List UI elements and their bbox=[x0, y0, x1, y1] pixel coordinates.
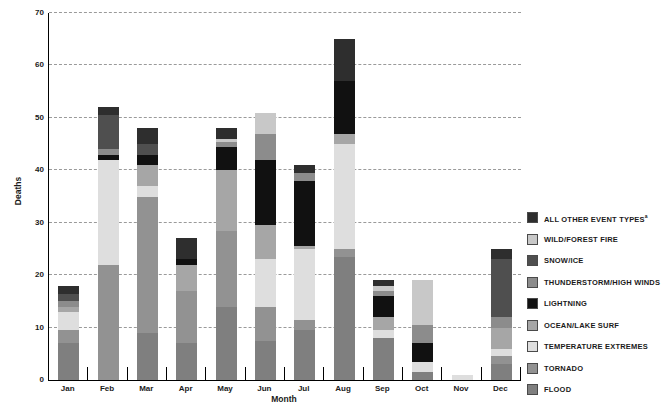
y-tick-label-20: 20 bbox=[10, 271, 44, 279]
segment-dec-snow-ice bbox=[491, 259, 512, 317]
x-tick-label-dec: Dec bbox=[480, 384, 520, 393]
legend-swatch bbox=[527, 320, 538, 331]
segment-mar-flood bbox=[137, 333, 158, 380]
x-axis-tick bbox=[284, 367, 285, 380]
segment-feb-tornado bbox=[98, 265, 119, 380]
x-tick-label-may: May bbox=[205, 384, 245, 393]
x-axis-tick bbox=[245, 367, 246, 380]
segment-mar-ocean-lake-surf bbox=[137, 165, 158, 186]
segment-jun-thunderstorm-high-winds bbox=[255, 134, 276, 160]
segment-oct-wild-forest-fire bbox=[412, 280, 433, 325]
segment-sep-ocean-lake-surf bbox=[373, 317, 394, 330]
bar-dec bbox=[491, 13, 512, 380]
gridline-50 bbox=[49, 117, 521, 118]
segment-dec-thunderstorm-high-winds bbox=[491, 317, 512, 327]
bar-sep bbox=[373, 13, 394, 380]
segment-jul-flood bbox=[294, 330, 315, 380]
segment-sep-lightning bbox=[373, 296, 394, 317]
segment-may-lightning bbox=[216, 147, 237, 171]
segment-feb-temperature-extremes bbox=[98, 160, 119, 265]
segment-jan-tornado bbox=[58, 330, 79, 343]
legend-swatch bbox=[527, 363, 538, 374]
legend-swatch bbox=[527, 277, 538, 288]
segment-jul-temperature-extremes bbox=[294, 249, 315, 320]
legend-item-ocean-lake-surf: OCEAN/LAKE SURF bbox=[527, 315, 660, 337]
y-tick-label-0: 0 bbox=[10, 376, 44, 384]
segment-nov-temperature-extremes bbox=[452, 375, 473, 380]
bar-nov bbox=[452, 13, 473, 380]
plot-area bbox=[48, 13, 521, 381]
segment-jan-snow-ice bbox=[58, 294, 79, 302]
legend-item-tornado: TORNADO bbox=[527, 358, 660, 380]
segment-oct-flood bbox=[412, 372, 433, 380]
y-tick-label-50: 50 bbox=[10, 114, 44, 122]
legend-swatch bbox=[527, 384, 538, 395]
segment-may-tornado bbox=[216, 231, 237, 307]
segment-feb-snow-ice bbox=[98, 115, 119, 149]
gridline-70 bbox=[49, 12, 521, 13]
x-tick-label-feb: Feb bbox=[87, 384, 127, 393]
segment-jul-thunderstorm-high-winds bbox=[294, 173, 315, 181]
segment-jun-ocean-lake-surf bbox=[255, 225, 276, 259]
segment-dec-ocean-lake-surf bbox=[491, 328, 512, 349]
gridline-30 bbox=[49, 222, 521, 223]
segment-jan-all-other-event-types bbox=[58, 286, 79, 294]
legend-swatch bbox=[527, 298, 538, 309]
gridline-20 bbox=[49, 274, 521, 275]
y-tick-label-10: 10 bbox=[10, 324, 44, 332]
legend-label: SNOW/ICE bbox=[544, 256, 584, 265]
legend-swatch bbox=[527, 341, 538, 352]
legend-label: WILD/FOREST FIRE bbox=[544, 235, 618, 244]
gridline-40 bbox=[49, 169, 521, 170]
x-tick-label-apr: Apr bbox=[166, 384, 206, 393]
segment-dec-temperature-extremes bbox=[491, 349, 512, 357]
segment-apr-all-other-event-types bbox=[176, 238, 197, 259]
segment-aug-ocean-lake-surf bbox=[334, 134, 355, 144]
legend-item-snow-ice: SNOW/ICE bbox=[527, 250, 660, 272]
segment-aug-flood bbox=[334, 257, 355, 380]
segment-dec-flood bbox=[491, 364, 512, 380]
segment-jul-tornado bbox=[294, 320, 315, 330]
legend-label: THUNDERSTORM/HIGH WINDS bbox=[544, 278, 660, 287]
y-tick-label-30: 30 bbox=[10, 219, 44, 227]
segment-feb-all-other-event-types bbox=[98, 107, 119, 115]
segment-jul-all-other-event-types bbox=[294, 165, 315, 173]
x-tick-label-nov: Nov bbox=[441, 384, 481, 393]
legend-item-flood: FLOOD bbox=[527, 379, 660, 401]
segment-aug-tornado bbox=[334, 249, 355, 257]
legend: ALL OTHER EVENT TYPESaWILD/FOREST FIRESN… bbox=[527, 207, 660, 401]
segment-jul-lightning bbox=[294, 181, 315, 247]
segment-mar-lightning bbox=[137, 155, 158, 165]
x-axis-tick bbox=[323, 367, 324, 380]
segment-apr-ocean-lake-surf bbox=[176, 265, 197, 291]
bar-apr bbox=[176, 13, 197, 380]
segment-mar-temperature-extremes bbox=[137, 186, 158, 196]
segment-sep-temperature-extremes bbox=[373, 330, 394, 338]
x-tick-label-aug: Aug bbox=[323, 384, 363, 393]
segment-jun-lightning bbox=[255, 160, 276, 226]
bar-may bbox=[216, 13, 237, 380]
legend-label: OCEAN/LAKE SURF bbox=[544, 321, 619, 330]
x-axis-tick bbox=[205, 367, 206, 380]
y-tick-label-70: 70 bbox=[10, 9, 44, 17]
legend-swatch bbox=[527, 255, 538, 266]
x-tick-label-jun: Jun bbox=[244, 384, 284, 393]
stacked-bar-chart: Deaths 010203040506070 JanFebMarAprMayJu… bbox=[0, 0, 663, 404]
x-axis-tick bbox=[481, 367, 482, 380]
x-axis-tick bbox=[166, 367, 167, 380]
legend-label: LIGHTNING bbox=[544, 299, 587, 308]
segment-oct-thunderstorm-high-winds bbox=[412, 325, 433, 343]
x-axis-tick bbox=[402, 367, 403, 380]
segment-jun-flood bbox=[255, 341, 276, 380]
x-axis-tick bbox=[520, 367, 521, 380]
segment-oct-lightning bbox=[412, 343, 433, 361]
legend-label: ALL OTHER EVENT TYPESa bbox=[544, 213, 648, 224]
y-tick-label-40: 40 bbox=[10, 166, 44, 174]
legend-item-wild-forest-fire: WILD/FOREST FIRE bbox=[527, 229, 660, 251]
segment-may-flood bbox=[216, 307, 237, 380]
segment-jun-wild-forest-fire bbox=[255, 113, 276, 134]
legend-item-thunderstorm-high-winds: THUNDERSTORM/HIGH WINDS bbox=[527, 272, 660, 294]
x-axis-tick bbox=[363, 367, 364, 380]
x-axis-title: Month bbox=[48, 394, 520, 404]
gridline-60 bbox=[49, 64, 521, 65]
